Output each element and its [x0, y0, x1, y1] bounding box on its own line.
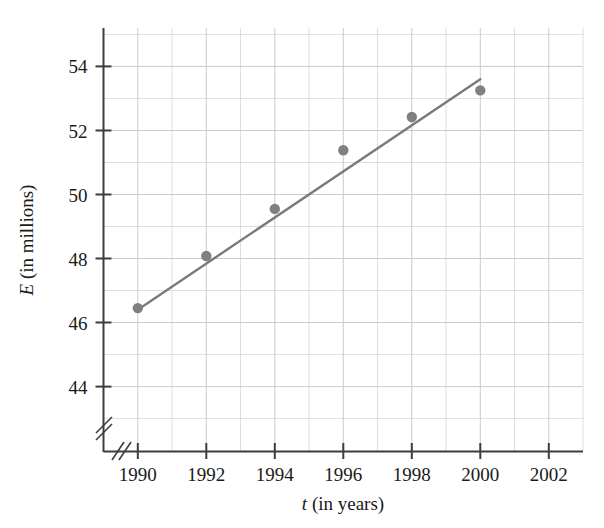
x-tick-label: 1992 [187, 464, 225, 485]
scatter-plot-svg: 444648505254 199019921994199619982000200… [0, 0, 604, 528]
plot-background [0, 0, 604, 528]
data-point [475, 85, 485, 95]
y-tick-label: 50 [69, 185, 88, 206]
y-tick-label: 52 [69, 121, 88, 142]
x-axis-label: t (in years) [302, 493, 384, 515]
data-point [201, 251, 211, 261]
x-tick-label: 2002 [530, 464, 568, 485]
x-tick-label: 1990 [119, 464, 157, 485]
y-tick-label: 46 [69, 313, 88, 334]
x-tick-label: 1996 [324, 464, 362, 485]
data-point [133, 303, 143, 313]
data-point [338, 145, 348, 155]
y-tick-label: 48 [69, 249, 88, 270]
x-tick-label: 2000 [461, 464, 499, 485]
y-tick-label: 54 [69, 56, 89, 77]
data-point [407, 112, 417, 122]
chart-figure: 444648505254 199019921994199619982000200… [0, 0, 604, 528]
y-tick-label: 44 [69, 377, 89, 398]
x-tick-label: 1998 [393, 464, 431, 485]
x-tick-label: 1994 [256, 464, 295, 485]
data-point [270, 204, 280, 214]
y-axis-label: E (in millions) [16, 185, 38, 297]
